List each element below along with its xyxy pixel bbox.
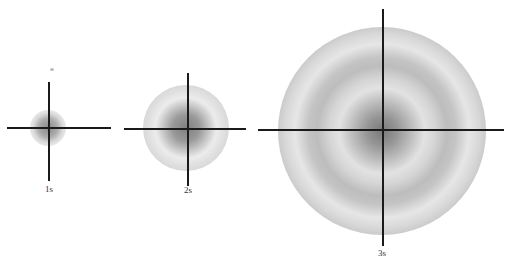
speck (50, 68, 54, 71)
y-axis (48, 82, 50, 181)
orbital-label: 2s (184, 185, 192, 195)
x-axis (258, 129, 504, 131)
orbital-label: 3s (378, 248, 386, 258)
y-axis (187, 73, 189, 186)
orbital-label: 1s (45, 184, 53, 194)
x-axis (124, 128, 246, 130)
y-axis (382, 9, 384, 246)
x-axis (7, 127, 111, 129)
